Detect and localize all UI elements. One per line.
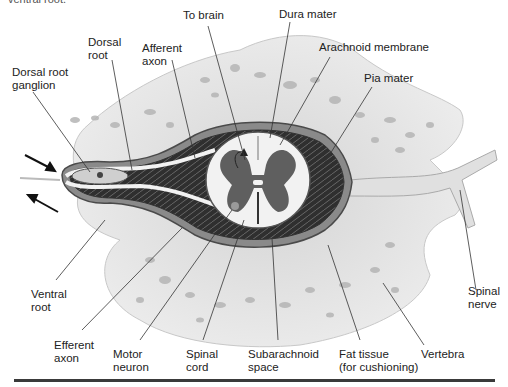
label-ventral-root: Ventral root <box>31 288 67 313</box>
spinal-cord-shape <box>206 132 310 228</box>
label-fat-tissue: Fat tissue (for cushioning) <box>339 348 418 373</box>
label-efferent-axon: Efferent axon <box>54 339 94 364</box>
label-dorsal-root: Dorsal root <box>88 36 121 61</box>
label-dorsal-root-ganglion: Dorsal root ganglion <box>12 66 68 91</box>
label-spinal-cord: Spinal cord <box>186 348 218 373</box>
label-dura-mater: Dura mater <box>279 8 337 21</box>
label-arachnoid-membrane: Arachnoid membrane <box>319 41 429 54</box>
label-motor-neuron: Motor neuron <box>113 348 149 373</box>
label-vertebra: Vertebra <box>421 348 464 361</box>
label-pia-mater: Pia mater <box>364 72 413 85</box>
spinal-cord-diagram <box>0 0 508 387</box>
label-subarachnoid-space: Subarachnoid space <box>248 348 319 373</box>
label-spinal-nerve: Spinal nerve <box>468 285 500 310</box>
label-afferent-axon: Afferent axon <box>142 42 182 67</box>
label-to-brain: To brain <box>183 9 224 22</box>
bottom-rule <box>14 379 495 382</box>
signal-arrows <box>20 155 60 212</box>
